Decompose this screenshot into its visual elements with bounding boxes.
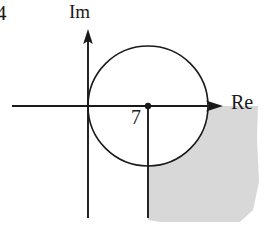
circle-center-dot (145, 103, 151, 109)
corner-number-label: 4 (0, 3, 7, 24)
imaginary-axis-label: Im (69, 2, 90, 21)
real-axis-group (12, 101, 223, 112)
circle-center-label: 7 (131, 107, 141, 127)
complex-plane-figure: Im Re 7 4 (0, 0, 270, 228)
real-axis-label: Re (231, 92, 253, 112)
